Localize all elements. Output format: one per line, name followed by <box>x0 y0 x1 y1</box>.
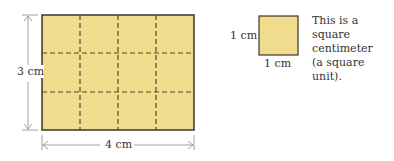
width-label: 4 cm <box>105 138 132 151</box>
height-label: 3 cm <box>17 65 44 78</box>
unit-description: This is a square centimeter (a square un… <box>312 14 394 84</box>
unit-bottom-label: 1 cm <box>264 57 291 70</box>
unit-left-label: 1 cm <box>230 29 257 42</box>
unit-square <box>259 16 298 55</box>
main-rectangle <box>42 15 194 130</box>
